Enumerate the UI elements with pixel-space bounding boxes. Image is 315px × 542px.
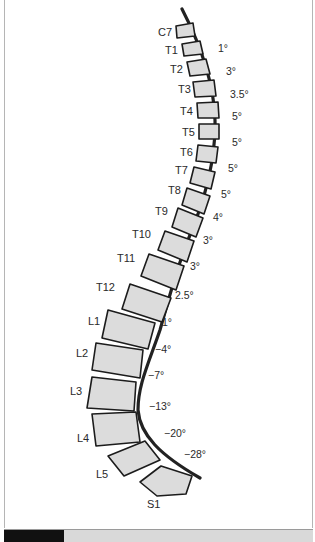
vertebra-t2 [187, 59, 210, 76]
angle-l2-l3: −13° [149, 400, 171, 412]
vertebra-l4 [92, 412, 140, 446]
vertebra-t4 [197, 102, 219, 118]
label-t10: T10 [132, 228, 151, 240]
angle-t4-t5: 5° [232, 136, 242, 148]
label-t11: T11 [117, 252, 135, 264]
label-l2: L2 [76, 347, 88, 359]
label-l4: L4 [77, 432, 89, 444]
label-t8: T8 [168, 184, 181, 196]
label-t4: T4 [180, 105, 193, 117]
vertebra-t6 [196, 145, 218, 163]
label-s1: S1 [147, 498, 160, 510]
label-l1: L1 [88, 315, 100, 327]
label-l3: L3 [70, 385, 82, 397]
vertebra-l2 [92, 343, 143, 378]
angle-t2-t3: 3.5° [230, 88, 249, 100]
angle-t8-t9: 3° [203, 234, 213, 246]
angle-t6-t7: 5° [221, 188, 231, 200]
angle-t7-t8: 4° [213, 211, 223, 223]
label-c7: C7 [158, 26, 172, 38]
vertebra-s1 [140, 466, 192, 496]
figure-caption-bar [4, 529, 313, 542]
angle-t5-t6: 5° [228, 162, 238, 174]
angle-c7-t1: 1° [218, 42, 228, 54]
angle-l1-l2: −7° [148, 369, 164, 381]
vertebra-t1 [182, 41, 203, 56]
vertebra-t5 [199, 124, 219, 139]
label-t2: T2 [170, 63, 183, 75]
vertebra-t3 [193, 80, 216, 97]
vertebra-l3 [87, 377, 136, 411]
vertebra-t7 [190, 167, 215, 189]
angle-t9-t10: 3° [190, 260, 200, 272]
figure-number-tag [4, 530, 64, 542]
label-t3: T3 [178, 83, 191, 95]
angle-l3-l4: −20° [164, 427, 186, 439]
angle-t10-t11: 2.5° [175, 289, 194, 301]
label-t12: T12 [96, 281, 115, 293]
label-t5: T5 [182, 126, 195, 138]
spine-diagram: C7 T1 T2 T3 T4 T5 T6 T7 T8 T9 T10 T11 T1… [0, 0, 315, 528]
vertebra-c7 [176, 23, 195, 38]
label-l5: L5 [96, 468, 108, 480]
label-t7: T7 [175, 164, 188, 176]
label-t1: T1 [165, 44, 178, 56]
angle-t1-t2: 3° [226, 65, 236, 77]
angle-t12-l1: −4° [155, 343, 171, 355]
figure-caption-text [64, 530, 313, 542]
angle-l4-l5: −28° [184, 448, 206, 460]
label-t6: T6 [180, 146, 193, 158]
angle-t3-t4: 5° [232, 110, 242, 122]
angle-t11-t12: 1° [162, 316, 172, 328]
label-t9: T9 [155, 205, 168, 217]
vertebra-t11 [141, 254, 184, 290]
vertebra-l5 [108, 441, 160, 476]
